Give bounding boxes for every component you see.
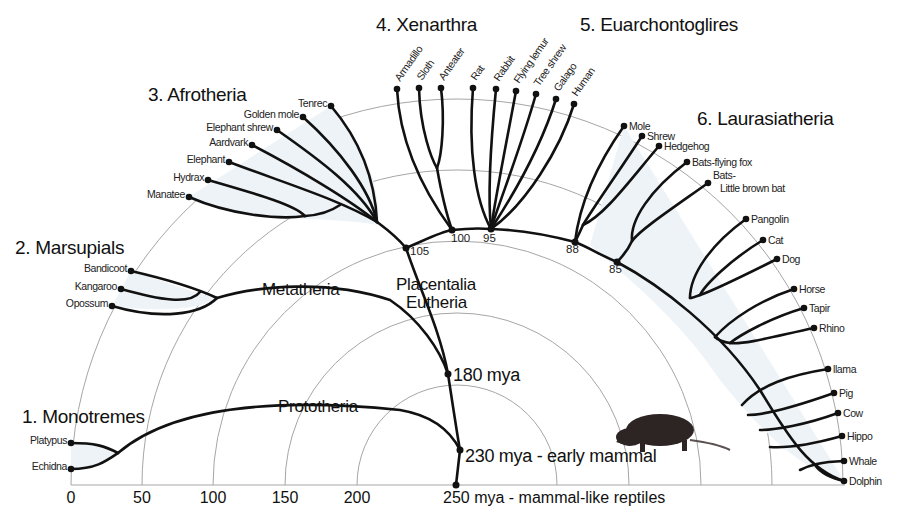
axis-tick-0: 0 <box>67 489 76 506</box>
tip-label: Aardvark <box>209 136 249 148</box>
tip-node <box>394 86 401 93</box>
tip-node <box>438 85 445 92</box>
tip-label: Anteater <box>436 45 467 83</box>
axis-tick-100: 100 <box>200 489 227 506</box>
tip-node <box>68 466 75 473</box>
tip-node <box>811 325 818 332</box>
tip-node <box>68 440 75 447</box>
tip-node <box>274 127 281 134</box>
tip-label: Cow <box>843 407 864 419</box>
annotation-230-mya: 230 mya - early mammal <box>465 446 656 466</box>
axis-tick-150: 150 <box>272 489 299 506</box>
tip-node <box>186 194 193 201</box>
tip-label: Kangaroo <box>75 280 118 292</box>
tip-label: Echidna <box>32 460 68 472</box>
tip-label: Elephant <box>187 153 226 165</box>
clade-label-prototheria: Prototheria <box>278 397 359 416</box>
tip-label: Platypus <box>30 434 67 446</box>
tip-label: Hippo <box>847 430 873 442</box>
group-label-afrotheria: 3. Afrotheria <box>148 84 247 105</box>
group-label-laurasiatheria: 6. Laurasiatheria <box>697 108 834 129</box>
node-age-105: 105 <box>410 245 429 257</box>
tip-node <box>825 366 832 373</box>
tip-node <box>621 123 628 130</box>
tip-node <box>118 286 125 293</box>
tip-label: Whale <box>849 455 877 467</box>
node-age-85: 85 <box>609 263 622 275</box>
tip-label: Rhino <box>819 322 845 334</box>
tip-node <box>205 177 212 184</box>
tip-node <box>835 410 842 417</box>
group-label-monotremes: 1. Monotremes <box>22 406 145 427</box>
node-age-88: 88 <box>566 243 579 255</box>
tip-label: llama <box>833 363 857 375</box>
tip-node <box>684 159 691 166</box>
tip-node <box>774 256 781 263</box>
tip-node <box>416 85 423 92</box>
tip-node <box>493 86 500 93</box>
tip-label: Pig <box>839 387 854 399</box>
tip-label: Elephant shrew <box>206 121 274 133</box>
tip-label: Horse <box>799 283 826 295</box>
tip-label: Pangolin <box>751 213 789 225</box>
tip-node <box>839 433 846 440</box>
tip-label: Golden mole <box>244 108 300 120</box>
tip-node <box>841 458 848 465</box>
node-age-100: 100 <box>451 232 470 244</box>
tip-node <box>801 305 808 312</box>
tip-node <box>841 478 848 485</box>
group-label-marsupials: 2. Marsupials <box>15 237 124 258</box>
tip-label: Opossum <box>66 297 109 309</box>
time-annotations: 180 mya 230 mya - early mammal <box>453 365 656 466</box>
tip-label: Bats- <box>713 169 736 181</box>
tip-node <box>328 103 335 110</box>
tip-node <box>533 91 540 98</box>
tip-node <box>743 216 750 223</box>
tip-label: Tenrec <box>298 97 327 109</box>
tip-node <box>513 88 520 95</box>
annotation-180-mya: 180 mya <box>453 365 521 385</box>
tip-node <box>553 96 560 103</box>
tip-node <box>300 114 307 121</box>
tip-node <box>705 180 712 187</box>
tip-node <box>760 237 767 244</box>
tip-label: Hedgehog <box>664 140 710 152</box>
node-age-95: 95 <box>483 232 496 244</box>
tip-node <box>226 159 233 166</box>
tip-label: Rat <box>468 62 487 82</box>
phylogenetic-tree-diagram: PlatypusEchidnaBandicootKangarooOpossumM… <box>0 0 905 530</box>
node-age-labels: 105 100 95 88 85 <box>410 232 622 275</box>
tip-node <box>639 133 646 140</box>
tip-label: Dolphin <box>849 475 882 487</box>
tip-label: Hydrax <box>173 171 205 183</box>
clade-labels: Prototheria Metatheria Placentalia Euthe… <box>262 275 477 416</box>
tip-node <box>470 85 477 92</box>
clade-label-eutheria: Eutheria <box>406 293 468 312</box>
clade-label-placentalia: Placentalia <box>396 275 477 294</box>
tip-node <box>571 101 578 108</box>
time-axis: 0 50 100 150 200 250 mya - mammal-like r… <box>67 489 666 506</box>
group-label-euarchontoglires: 5. Euarchontoglires <box>580 14 738 35</box>
axis-tick-50: 50 <box>133 489 151 506</box>
tip-node <box>791 286 798 293</box>
tip-label: Dog <box>782 253 801 265</box>
tip-label: Bats-flying fox <box>692 156 753 168</box>
clade-label-metatheria: Metatheria <box>262 280 340 299</box>
tip-node <box>109 303 116 310</box>
tip-node <box>249 142 256 149</box>
group-label-xenarthra: 4. Xenarthra <box>376 14 478 35</box>
tip-label: Tapir <box>809 302 831 314</box>
tip-node <box>831 390 838 397</box>
tip-label-line2: Little brown bat <box>720 182 785 194</box>
tip-node <box>656 143 663 150</box>
axis-center-label: 250 mya - mammal-like reptiles <box>443 489 665 506</box>
tip-label: Cat <box>768 234 784 246</box>
tip-label: Manatee <box>147 188 186 200</box>
axis-tick-200: 200 <box>344 489 371 506</box>
tip-label: Bandicoot <box>84 262 128 274</box>
tip-node <box>128 268 135 275</box>
